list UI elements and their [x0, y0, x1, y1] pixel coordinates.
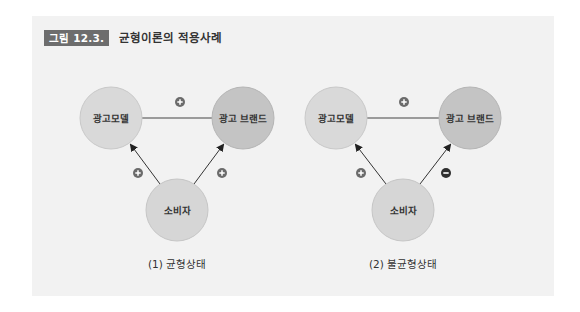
node-ad-brand: 광고 브랜드 — [212, 87, 274, 149]
minus-badge-icon — [441, 168, 451, 178]
node-label: 광고 브랜드 — [446, 113, 494, 124]
node-consumer: 소비자 — [146, 179, 208, 241]
node-ad-model: 광고모델 — [80, 87, 142, 149]
node-label: 광고모델 — [318, 113, 354, 124]
node-label: 광고모델 — [93, 113, 129, 124]
plus-badge-icon — [133, 168, 143, 178]
caption-imbalanced: (2) 불균형상태 — [369, 256, 437, 271]
balance-theory-diagram: 광고모델 광고 브랜드 소비자 광고모델 — [0, 0, 580, 312]
node-ad-model: 광고모델 — [305, 87, 367, 149]
plus-badge-icon — [217, 168, 227, 178]
plus-badge-icon — [399, 97, 409, 107]
diagram-imbalanced: 광고모델 광고 브랜드 소비자 — [305, 87, 501, 241]
node-consumer: 소비자 — [372, 179, 434, 241]
plus-badge-icon — [356, 168, 366, 178]
arrow-consumer-to-brand — [194, 145, 223, 184]
arrow-consumer-to-brand — [420, 145, 450, 184]
arrow-consumer-to-model — [131, 145, 160, 184]
diagram-balanced: 광고모델 광고 브랜드 소비자 — [80, 87, 274, 241]
arrow-consumer-to-model — [356, 145, 386, 184]
node-label: 광고 브랜드 — [219, 113, 267, 124]
node-ad-brand: 광고 브랜드 — [439, 87, 501, 149]
node-label: 소비자 — [164, 205, 191, 216]
plus-badge-icon — [175, 97, 185, 107]
node-label: 소비자 — [390, 205, 417, 216]
caption-balanced: (1) 균형상태 — [148, 256, 206, 271]
